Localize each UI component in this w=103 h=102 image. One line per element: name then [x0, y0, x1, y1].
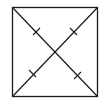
square-diagonals-diagram	[0, 0, 103, 102]
tick-mark-top-left	[33, 28, 40, 35]
tick-mark-top-right	[70, 28, 77, 35]
